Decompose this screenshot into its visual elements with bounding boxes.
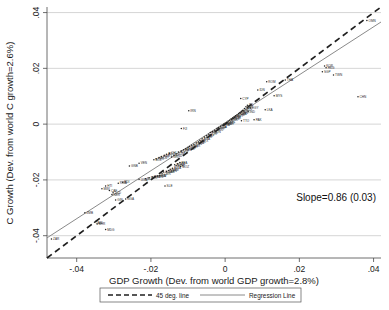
data-point <box>168 170 170 172</box>
data-point <box>169 169 171 171</box>
data-point <box>232 117 234 119</box>
data-point <box>236 114 238 116</box>
data-point <box>212 131 214 133</box>
data-point <box>253 119 255 121</box>
data-point <box>157 175 159 177</box>
data-point <box>235 115 237 117</box>
x-tick-label-4: .04 <box>368 264 380 274</box>
data-point <box>238 113 240 115</box>
data-point <box>187 147 189 149</box>
data-point-label: CHN <box>360 95 367 99</box>
data-point <box>242 109 244 111</box>
x-tick-label-3: .02 <box>293 264 305 274</box>
data-point <box>199 140 201 142</box>
data-point <box>218 127 220 129</box>
data-point <box>118 183 120 185</box>
data-point <box>161 173 163 175</box>
data-point-label: CYP <box>242 97 248 101</box>
slope-annotation: Slope=0.86 (0.03) <box>296 192 376 203</box>
data-point-label: FJI <box>183 127 187 131</box>
data-point <box>173 155 175 157</box>
data-point-label: ZAR <box>53 237 60 241</box>
data-point <box>125 198 127 200</box>
data-point-label: ZMB <box>86 211 93 215</box>
data-point <box>191 145 193 147</box>
data-point <box>239 112 241 114</box>
data-point <box>138 162 140 164</box>
data-point <box>273 95 275 97</box>
data-point <box>159 175 161 177</box>
data-point <box>226 122 228 124</box>
data-point <box>223 123 225 125</box>
data-point <box>169 152 171 154</box>
data-point <box>189 146 191 148</box>
data-point <box>193 143 195 145</box>
data-point-label: CAF <box>111 189 117 193</box>
data-point <box>208 133 210 135</box>
data-point <box>163 171 165 173</box>
data-point <box>216 128 218 130</box>
y-tick-label-2: 0 <box>31 122 41 127</box>
data-point <box>174 164 176 166</box>
data-point <box>214 130 216 132</box>
data-point <box>105 229 107 231</box>
data-point <box>221 124 223 126</box>
data-point <box>204 136 206 138</box>
data-point <box>178 151 180 153</box>
data-point <box>244 108 246 110</box>
data-point-label: IRN <box>190 109 195 113</box>
data-point <box>181 150 183 152</box>
data-point <box>145 178 147 180</box>
data-point <box>177 163 179 165</box>
data-point <box>198 141 200 143</box>
data-point <box>188 110 190 112</box>
y-axis-title: C Growth (Dev. from world C growth=2.6%) <box>4 42 15 225</box>
data-point-label: JAM <box>96 221 103 225</box>
data-point <box>240 98 242 100</box>
data-point <box>161 156 163 158</box>
data-point-label: TWN <box>335 73 342 77</box>
data-point <box>152 176 154 178</box>
data-point <box>325 67 327 69</box>
data-point <box>285 79 287 81</box>
data-point <box>164 185 166 187</box>
data-point <box>181 128 183 130</box>
data-point <box>230 118 232 120</box>
data-point <box>220 126 222 128</box>
data-point <box>195 142 197 144</box>
data-point-label: VEN <box>141 161 147 165</box>
data-point <box>166 171 168 173</box>
data-point <box>84 212 86 214</box>
data-point <box>241 120 243 122</box>
data-point <box>324 65 326 67</box>
data-point <box>257 89 259 91</box>
data-point-label: MDG <box>107 228 115 232</box>
data-point <box>250 107 252 109</box>
data-points: ZARMDGBHRJAMZMBNGAGINNERTCDCAFHTIMWIRWAB… <box>51 19 376 242</box>
data-point <box>227 121 229 123</box>
data-point <box>247 104 249 106</box>
data-point-label: THA <box>287 78 294 82</box>
data-point <box>245 106 247 108</box>
data-point <box>206 135 208 137</box>
data-point <box>51 238 53 240</box>
data-point-label: SLE <box>167 184 173 188</box>
data-point-label: NGA <box>127 197 135 201</box>
data-point-label: ROM <box>268 80 276 84</box>
data-point-label: OMN <box>368 19 375 23</box>
data-point <box>94 222 96 224</box>
plot-canvas: -.04-.020.02.04-.04-.020.02.04 ZARMDGBHR… <box>0 0 389 310</box>
data-point <box>175 153 177 155</box>
data-point <box>322 71 324 73</box>
data-point <box>153 159 155 161</box>
y-tick-label-3: .02 <box>31 62 41 74</box>
data-point <box>164 155 166 157</box>
data-point-label: BDI <box>124 180 129 184</box>
x-axis-title: GDP Growth (Dev. from world GDP growth=2… <box>109 275 319 286</box>
data-point <box>155 176 157 178</box>
y-tick-label-4: .04 <box>31 6 41 18</box>
scatter-plot-figure: -.04-.020.02.04-.04-.020.02.04 ZARMDGBHR… <box>0 0 389 310</box>
data-point <box>166 154 168 156</box>
data-point <box>357 96 359 98</box>
data-point <box>155 158 157 160</box>
